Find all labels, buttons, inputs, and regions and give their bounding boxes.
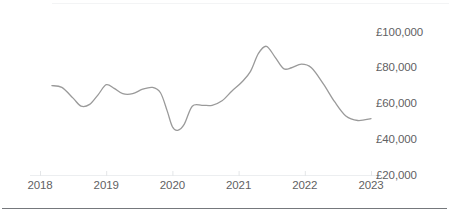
x-axis-tick-label: 2019 (94, 180, 119, 192)
x-axis-tick-label: 2022 (292, 180, 317, 192)
x-axis-labels: 201820192020202120222023 (0, 0, 449, 200)
line-chart: £20,000£40,000£60,000£80,000£100,000 201… (0, 0, 449, 200)
bottom-divider (2, 208, 447, 209)
x-axis-tick-label: 2023 (358, 180, 383, 192)
x-axis-tick-label: 2018 (27, 180, 52, 192)
chart-screenshot: £20,000£40,000£60,000£80,000£100,000 201… (0, 0, 449, 222)
x-axis-tick-label: 2020 (160, 180, 185, 192)
x-axis-tick-label: 2021 (226, 180, 251, 192)
